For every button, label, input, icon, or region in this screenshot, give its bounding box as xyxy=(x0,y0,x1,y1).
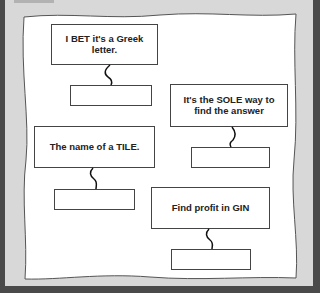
clue-box-2: It's the SOLE way to find the answer xyxy=(170,84,288,127)
clue-box-3: The name of a TILE. xyxy=(34,126,155,168)
answer-box-3[interactable] xyxy=(54,189,135,210)
answer-box-4[interactable] xyxy=(171,249,251,270)
clue-box-4: Find profit in GIN xyxy=(151,187,270,229)
answer-box-1[interactable] xyxy=(70,85,152,106)
answer-box-2[interactable] xyxy=(191,147,270,168)
clue-box-1: I BET it's a Greek letter. xyxy=(51,24,158,65)
